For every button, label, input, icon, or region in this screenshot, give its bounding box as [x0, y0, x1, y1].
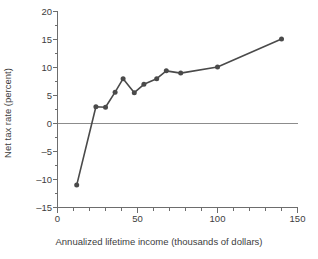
data-point-marker	[215, 64, 220, 69]
data-point-marker	[279, 36, 284, 41]
data-point-marker	[141, 82, 146, 87]
data-point-marker	[154, 76, 159, 81]
x-axis-tick-labels: 050100150	[0, 213, 318, 227]
chart-figure: Net tax rate (percent) –15–10–505101520 …	[0, 0, 318, 259]
data-point-marker	[74, 183, 79, 188]
x-axis-tick-label: 100	[198, 213, 238, 224]
x-axis-tick-label: 150	[278, 213, 318, 224]
data-point-marker	[164, 68, 169, 73]
data-point-marker	[132, 90, 137, 95]
data-point-marker	[121, 76, 126, 81]
x-axis-tick-label: 50	[118, 213, 158, 224]
data-point-marker	[113, 90, 118, 95]
x-axis-title: Annualized lifetime income (thousands of…	[0, 236, 318, 247]
data-point-marker	[103, 105, 108, 110]
data-point-marker	[178, 71, 183, 76]
series-line	[77, 39, 282, 185]
data-point-marker	[93, 104, 98, 109]
x-axis-tick-label: 0	[38, 213, 78, 224]
